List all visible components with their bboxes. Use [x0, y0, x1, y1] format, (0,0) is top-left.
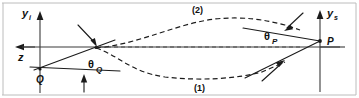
ray-q-upper	[34, 40, 115, 70]
branch-label-2: (2)	[192, 5, 203, 15]
branch-1-curve	[96, 48, 285, 79]
y-s-axis-subscript: s	[334, 14, 338, 21]
y-i-axis-subscript: i	[29, 14, 32, 21]
angle-callout-marks	[78, 13, 303, 92]
point-label-q: Q	[36, 74, 44, 85]
figure-canvas: y i z y s Q P θ Q θ P (2) (1)	[0, 0, 359, 98]
ray-p-upper	[243, 28, 320, 41]
ray-q-lower	[30, 67, 120, 71]
junction-marker-left	[95, 46, 98, 49]
point-marker-p	[318, 39, 322, 43]
theta-q-lower-arrowhead	[81, 74, 87, 83]
point-marker-q	[38, 67, 41, 70]
right-axis-system	[317, 10, 345, 92]
point-label-p: P	[327, 36, 334, 47]
figure-labels: y i z y s Q P θ Q θ P (2) (1)	[17, 5, 338, 93]
angle-label-theta-q-symbol: θ	[88, 58, 94, 70]
angle-label-theta-q-subscript: Q	[96, 65, 103, 74]
z-axis-label: z	[17, 51, 24, 63]
theta-p-upper-pointer	[287, 13, 303, 28]
rays-into-p	[243, 28, 320, 78]
angle-label-theta-p-symbol: θ	[264, 30, 270, 42]
y-i-axis-arrowhead	[37, 11, 44, 20]
rays-from-q	[30, 40, 120, 71]
branch-label-1: (1)	[194, 83, 205, 93]
angle-label-theta-p-subscript: P	[272, 37, 278, 46]
y-s-axis-arrowhead	[317, 10, 324, 19]
ray-path-figure: y i z y s Q P θ Q θ P (2) (1)	[0, 0, 359, 98]
y-s-axis-label: y	[326, 7, 334, 19]
curved-ray-paths	[96, 18, 300, 79]
y-i-axis-label: y	[21, 7, 29, 19]
